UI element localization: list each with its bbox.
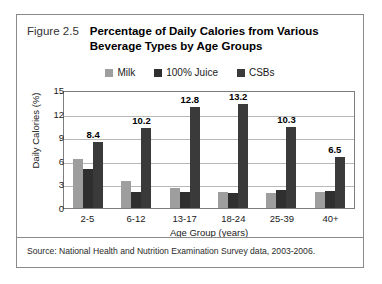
bar	[131, 192, 141, 208]
x-axis-ticks: 2-56-1213-1718-2425-3940+	[63, 213, 355, 224]
bar	[83, 169, 93, 208]
bar-value-label: 13.2	[229, 91, 248, 102]
legend-item-milk: Milk	[105, 67, 135, 78]
bar-value-label: 8.4	[87, 129, 100, 140]
bar	[170, 188, 180, 208]
bar	[325, 191, 335, 208]
bar	[276, 190, 286, 208]
bar-group: 13.2	[213, 92, 253, 208]
bar	[190, 107, 200, 208]
bar-group: 8.4	[68, 92, 108, 208]
x-axis-tick-label: 25-39	[262, 213, 302, 224]
bar-value-label: 12.8	[181, 94, 200, 105]
source-separator	[17, 237, 363, 238]
chart-legend: Milk100% JuiceCSBs	[17, 67, 363, 78]
legend-label: Milk	[117, 67, 135, 78]
bar-groups: 8.410.212.813.210.36.5	[64, 92, 354, 208]
bar	[228, 193, 238, 208]
bar	[286, 127, 296, 208]
bar	[180, 192, 190, 208]
bar-group: 10.3	[261, 92, 301, 208]
bar-value-label: 6.5	[328, 144, 341, 155]
bar	[121, 181, 131, 208]
x-axis-tick-label: 6-12	[116, 213, 156, 224]
y-axis-tick-label: 0	[24, 203, 64, 214]
figure-container: Figure 2.5 Percentage of Daily Calories …	[16, 14, 364, 268]
y-axis-tick-label: 6	[24, 156, 64, 167]
bar-value-label: 10.2	[132, 115, 151, 126]
legend-swatch-icon	[237, 69, 245, 77]
figure-title-line2: Beverage Types by Age Groups	[90, 39, 319, 54]
bar	[93, 142, 103, 208]
x-axis-tick-label: 18-24	[213, 213, 253, 224]
bar	[266, 193, 276, 208]
bar	[335, 157, 345, 208]
legend-label: CSBs	[249, 67, 275, 78]
x-axis-tick-label: 13-17	[165, 213, 205, 224]
bar-group: 6.5	[310, 92, 350, 208]
figure-number: Figure 2.5	[27, 24, 79, 53]
bar	[238, 104, 248, 208]
bar-value-label: 10.3	[277, 114, 296, 125]
y-axis-tick-label: 12	[24, 109, 64, 120]
y-axis-tick-label: 3	[24, 179, 64, 190]
bar-group: 10.2	[116, 92, 156, 208]
legend-swatch-icon	[105, 69, 113, 77]
y-axis-tick-label: 9	[24, 132, 64, 143]
x-axis-tick-label: 2-5	[67, 213, 107, 224]
plot-area: Daily Calories (%) 8.410.212.813.210.36.…	[17, 85, 365, 235]
bar	[218, 192, 228, 208]
bar	[141, 128, 151, 208]
figure-header: Figure 2.5 Percentage of Daily Calories …	[27, 24, 355, 53]
legend-label: 100% Juice	[166, 67, 218, 78]
legend-item-csbs: CSBs	[237, 67, 275, 78]
bar	[73, 159, 83, 208]
figure-title-line1: Percentage of Daily Calories from Variou…	[90, 24, 319, 39]
x-axis-tick-label: 40+	[311, 213, 351, 224]
plot-canvas: 8.410.212.813.210.36.5	[63, 91, 355, 209]
y-axis-tick-label: 15	[24, 85, 64, 96]
figure-title: Percentage of Daily Calories from Variou…	[90, 24, 319, 53]
source-note: Source: National Health and Nutrition Ex…	[27, 246, 315, 256]
bar	[315, 192, 325, 208]
bar-group: 12.8	[165, 92, 205, 208]
legend-swatch-icon	[154, 69, 162, 77]
legend-item-100-juice: 100% Juice	[154, 67, 218, 78]
